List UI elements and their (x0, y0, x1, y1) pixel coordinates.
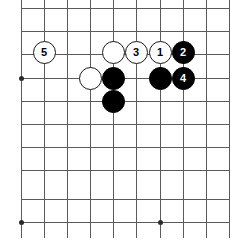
stone-move-number: 4 (180, 72, 186, 83)
stone-black-wall-top (102, 67, 125, 90)
stone-move-number: 2 (180, 46, 186, 57)
stone-white-1: 1 (149, 41, 172, 64)
stone-black-wall-bottom (102, 90, 125, 113)
stone-black-2: 2 (172, 41, 195, 64)
stone-white-3: 3 (125, 41, 148, 64)
stone-black-4: 4 (172, 67, 195, 90)
stone-white-left (79, 67, 102, 90)
stone-move-number: 1 (157, 46, 163, 57)
stone-black-right (149, 67, 172, 90)
stone-move-number: 5 (41, 46, 47, 57)
stone-white-corner (102, 41, 125, 64)
stone-move-number: 3 (133, 46, 139, 57)
go-board-diagram: 53124 (0, 0, 237, 242)
board-stones: 53124 (0, 0, 237, 242)
stone-white-5: 5 (33, 41, 56, 64)
